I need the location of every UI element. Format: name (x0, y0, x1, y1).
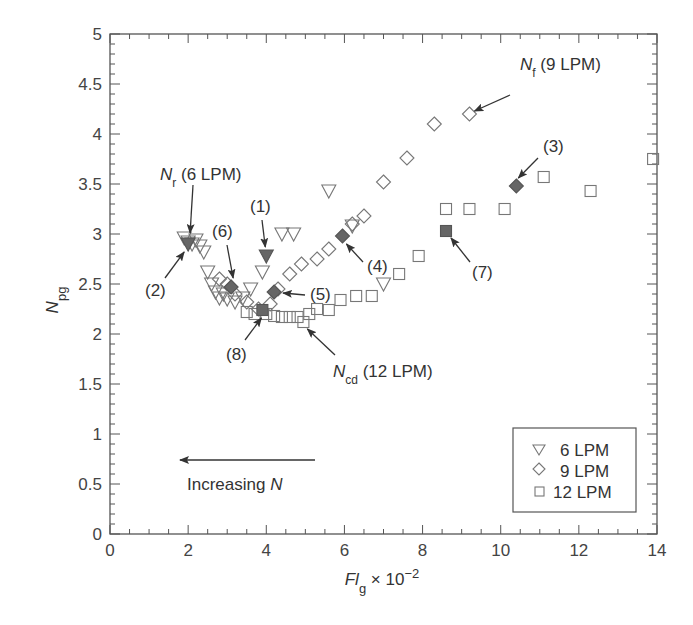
y-tick-label: 0 (93, 525, 102, 544)
x-axis-label: Flg × 10−2 (345, 566, 420, 596)
x-tick-label: 0 (105, 541, 114, 560)
point-label: (7) (472, 263, 493, 282)
diamond-marker (322, 242, 336, 256)
annotation-arrow (474, 95, 510, 111)
x-tick-label: 6 (340, 541, 349, 560)
legend: 6 LPM 9 LPM 12 LPM (513, 428, 636, 512)
diamond-marker (400, 151, 414, 165)
x-tick-label: 4 (262, 541, 271, 560)
diamond-marker (267, 285, 281, 299)
legend-label-12lpm: 12 LPM (553, 483, 612, 502)
triangle-marker (244, 283, 258, 296)
y-tick-label: 5 (93, 25, 102, 44)
diamond-marker (283, 267, 297, 281)
triangle-marker (259, 250, 273, 263)
triangle-marker (201, 266, 215, 279)
annotation-nf: Nf (9 LPM) (520, 55, 601, 80)
increasing-n-label: Increasing N (187, 475, 283, 494)
y-axis-label: Npg (43, 287, 69, 314)
annotation-arrow (307, 329, 335, 355)
square-marker (441, 204, 452, 215)
y-tick-label: 3 (93, 225, 102, 244)
diamond-marker (377, 175, 391, 189)
point-label: (5) (310, 285, 331, 304)
diamond-marker (509, 179, 523, 193)
x-tick-label: 8 (418, 541, 427, 560)
annotation-arrow (451, 238, 470, 262)
x-tick-label: 10 (491, 541, 510, 560)
y-tick-label: 1.5 (78, 375, 102, 394)
diamond-marker (462, 107, 476, 121)
point-label: (1) (250, 197, 271, 216)
y-tick-label: 2 (93, 325, 102, 344)
square-marker (585, 186, 596, 197)
square-marker (538, 172, 549, 183)
annotation-arrow (262, 220, 265, 247)
diamond-marker (310, 252, 324, 266)
annotation-arrow (165, 252, 184, 278)
legend-label-6lpm: 6 LPM (560, 441, 609, 460)
square-marker (464, 204, 475, 215)
y-tick-label: 3.5 (78, 175, 102, 194)
square-marker (441, 226, 452, 237)
point-label: (8) (226, 345, 247, 364)
data-points (177, 107, 658, 328)
x-tick-label: 2 (183, 541, 192, 560)
square-marker (351, 291, 362, 302)
y-tick-label: 4.5 (78, 75, 102, 94)
point-label: (3) (543, 137, 564, 156)
y-tick-label: 1 (93, 425, 102, 444)
y-tick-label: 0.5 (78, 475, 102, 494)
annotation-arrow (346, 244, 363, 262)
point-label: (4) (367, 257, 388, 276)
diamond-marker (427, 117, 441, 131)
scatter-chart: 0246810121400.511.522.533.544.55 (1)(2)(… (0, 0, 693, 625)
annotation-arrow (245, 318, 261, 340)
triangle-marker (275, 228, 289, 241)
annotation-nr: Nr (6 LPM) (160, 165, 241, 190)
square-marker (257, 305, 268, 316)
triangle-marker (255, 266, 269, 279)
point-label: (2) (145, 281, 166, 300)
x-tick-label: 12 (569, 541, 588, 560)
square-marker (323, 305, 334, 316)
point-label: (6) (212, 222, 233, 241)
triangle-marker (287, 228, 301, 241)
annotation-arrow (190, 185, 193, 233)
square-marker (335, 295, 346, 306)
diamond-marker (294, 257, 308, 271)
square-marker (394, 269, 405, 280)
annotation-ncd: Ncd (12 LPM) (333, 362, 433, 387)
annotation-arrow (518, 158, 538, 178)
annotation-arrow (283, 293, 305, 295)
triangle-marker (197, 246, 211, 259)
square-marker (499, 204, 510, 215)
diamond-marker (212, 272, 226, 286)
triangle-marker (377, 278, 391, 291)
annotation-arrow (227, 245, 233, 278)
square-marker (413, 251, 424, 262)
x-tick-label: 14 (648, 541, 667, 560)
diamond-marker (335, 229, 349, 243)
square-marker (366, 291, 377, 302)
legend-label-9lpm: 9 LPM (560, 462, 609, 481)
y-tick-label: 4 (93, 125, 102, 144)
triangle-marker (322, 185, 336, 198)
square-marker (284, 312, 295, 323)
y-tick-label: 2.5 (78, 275, 102, 294)
square-marker (276, 312, 287, 323)
